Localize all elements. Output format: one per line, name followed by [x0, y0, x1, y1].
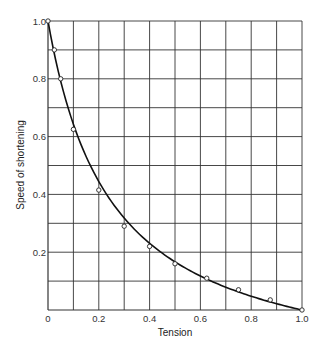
- data-point-marker: [71, 127, 75, 131]
- x-tick-label: 0.8: [245, 313, 258, 324]
- x-tick-label: 0.2: [92, 313, 105, 324]
- data-point-marker: [268, 298, 272, 302]
- data-point-marker: [97, 188, 101, 192]
- data-point-marker: [59, 77, 63, 81]
- data-point-marker: [147, 244, 151, 248]
- data-point-marker: [122, 224, 126, 228]
- x-tick-labels: 00.20.40.60.81.0: [45, 313, 308, 324]
- y-tick-label: 1.0: [33, 16, 46, 27]
- data-point-marker: [46, 19, 50, 23]
- speed-tension-chart: 00.20.40.60.81.0 0.20.40.60.81.0 Tension…: [0, 0, 323, 350]
- y-tick-labels: 0.20.40.60.81.0: [33, 16, 46, 258]
- y-axis-label: Speed of shortening: [15, 120, 26, 210]
- x-tick-label: 0: [45, 313, 50, 324]
- x-tick-label: 0.6: [194, 313, 207, 324]
- x-axis-label: Tension: [158, 327, 192, 338]
- y-tick-label: 0.8: [33, 73, 46, 84]
- x-tick-label: 0.4: [143, 313, 156, 324]
- y-tick-label: 0.4: [33, 189, 46, 200]
- data-point-marker: [236, 288, 240, 292]
- data-point-marker: [173, 262, 177, 266]
- grid: [48, 21, 302, 310]
- y-tick-label: 0.6: [33, 131, 46, 142]
- data-point-marker: [52, 48, 56, 52]
- x-tick-label: 1.0: [295, 313, 308, 324]
- data-point-marker: [300, 308, 304, 312]
- y-tick-label: 0.2: [33, 247, 46, 258]
- data-point-marker: [205, 276, 209, 280]
